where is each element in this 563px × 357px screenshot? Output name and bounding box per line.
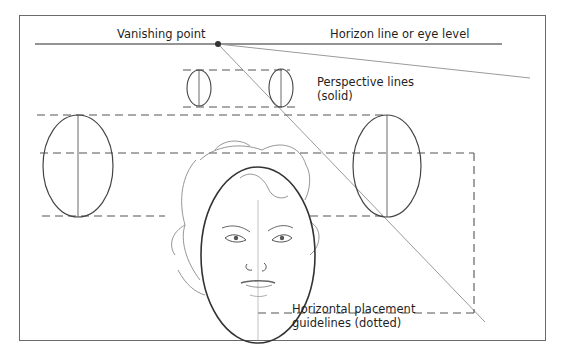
perspective-lines-label: Perspective lines <box>317 75 414 89</box>
placement-guidelines <box>37 70 474 313</box>
horizon-label: Horizon line or eye level <box>330 27 469 41</box>
perspective-lines-sublabel: (solid) <box>317 89 353 103</box>
ellipse-large-left <box>43 115 113 217</box>
guidelines-label: Horizontal placement <box>292 302 415 316</box>
vanishing-point-label: Vanishing point <box>117 27 206 41</box>
ellipse-small-right <box>269 69 293 107</box>
guidelines-sublabel: guidelines (dotted) <box>292 316 401 330</box>
ellipse-small-left <box>187 70 211 106</box>
vanishing-point-dot <box>215 41 221 47</box>
ellipse-large-right <box>353 115 421 217</box>
perspective-diagram <box>0 0 563 357</box>
